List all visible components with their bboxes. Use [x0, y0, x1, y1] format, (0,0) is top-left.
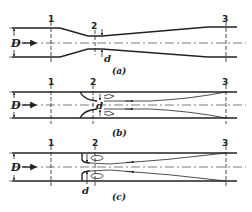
station-2-label: 2: [91, 21, 97, 31]
panel-a-venturi: 1 2 3 D d (a): [9, 14, 246, 76]
station-3-label: 3: [222, 138, 228, 148]
pipe-diameter-label: D: [10, 161, 21, 174]
caption-b: (b): [112, 128, 127, 138]
recirculation-eddy-icon: [91, 174, 103, 179]
pipe-diameter-label: D: [10, 37, 21, 50]
nozzle-upper: [80, 92, 97, 101]
station-1-label: 1: [48, 14, 54, 24]
station-1-label: 1: [48, 138, 54, 148]
orifice-plate-lower: [82, 171, 90, 181]
venturi-top-wall: [12, 27, 237, 36]
flow-meter-diagram: 1 2 3 D d (a) 1 2 3: [0, 0, 252, 212]
caption-a: (a): [112, 66, 126, 76]
panel-c-orifice: 1 2 3 D d (c): [9, 138, 246, 202]
station-2-label: 2: [92, 138, 98, 148]
nozzle-lower: [80, 109, 97, 118]
recirculation-eddy-icon: [91, 156, 103, 161]
recirculation-eddy-icon: [104, 111, 114, 115]
orifice-plate-upper: [82, 153, 90, 163]
throat-diameter-label: d: [104, 53, 111, 64]
recirculation-eddy-icon: [104, 95, 114, 99]
throat-diameter-label: d: [96, 100, 103, 111]
station-3-label: 3: [222, 77, 228, 87]
venturi-bottom-wall: [12, 49, 237, 57]
station-3-label: 3: [222, 14, 228, 24]
pipe-diameter-label: D: [10, 99, 21, 112]
station-1-label: 1: [48, 77, 54, 87]
throat-diameter-label: d: [82, 185, 89, 196]
panel-b-nozzle: 1 2 3 D d (b): [9, 77, 246, 138]
caption-c: (c): [112, 192, 126, 202]
station-2-label: 2: [90, 77, 96, 87]
